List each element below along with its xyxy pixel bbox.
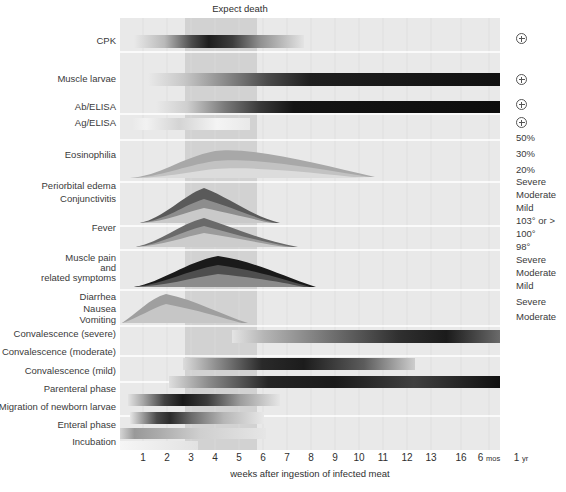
right-label-gi-severe: Severe [516,296,546,307]
row-label-diarrhea: Diarrhea [80,291,116,303]
row-label-convalescence-moderate: Convalescence (moderate) [2,346,116,358]
row-label-incubation: Incubation [72,436,116,448]
x-tick-8: 8 [308,452,314,463]
x-tick-12: 12 [401,452,412,463]
row-label-convalescence-severe: Convalescence (severe) [14,328,116,340]
row-label-periorbital-edema: Periorbital edema [42,180,116,192]
x-axis-title: weeks after ingestion of infected meat [120,468,500,479]
right-label-edema-moderate: Moderate [516,189,556,200]
plot-area [120,18,500,450]
right-label-edema-severe: Severe [516,176,546,187]
circled-plus-icon [516,117,527,128]
series-convalescence-moderate [183,358,415,370]
series-parenteral-phase [128,394,280,406]
right-label-fever-103: 103° or > [516,215,555,226]
row-label-muscle-larvae: Muscle larvae [57,73,116,85]
x-tick-1: 1 [140,452,146,463]
plot-svg [120,18,500,450]
circled-plus-icon [516,74,527,85]
series-convalescence-mild [169,376,500,388]
series-muscle-larvae [148,73,500,86]
chart-root: Expect death CPKMuscle larvaeAb/ELISAAg/… [0,0,566,492]
x-tick-3: 3 [188,452,194,463]
series-migration-newborn-larvae [130,412,264,424]
series-convalescence-severe [232,330,500,343]
right-label-muscle-pain-mild: Mild [516,280,533,291]
row-label-ab-elisa: Ab/ELISA [75,101,116,113]
right-label-eosinophilia-30: 30% [516,148,535,159]
row-label-nausea: Nausea [83,303,116,315]
x-tick-16: 16 [455,452,466,463]
x-tick-1-yr: 1 yr [514,452,529,463]
row-label-vomiting: Vomiting [80,314,116,326]
x-tick-5: 5 [236,452,242,463]
right-label-fever-100: 100° [516,228,536,239]
right-label-eosinophilia-20: 20% [516,164,535,175]
row-label-eosinophilia: Eosinophilia [65,149,116,161]
right-label-gi-moderate: Moderate [516,311,556,322]
row-label-cpk: CPK [96,35,116,47]
x-tick-6: 6 [260,452,266,463]
row-label-conjunctivitis: Conjunctivitis [60,193,116,205]
x-tick-11: 11 [378,452,388,463]
row-label-enteral-phase: Enteral phase [57,419,116,431]
x-tick-13: 13 [425,452,436,463]
series-ag-elisa [132,118,250,130]
right-label-column: 50%30%20%SevereModerateMild103° or >100°… [516,0,566,460]
row-label-convalescence-mild: Convalescence (mild) [25,365,116,377]
series-incubation [120,441,198,450]
series-cpk [134,35,304,48]
x-tick-7: 7 [284,452,290,463]
right-label-eosinophilia-50: 50% [516,132,535,143]
right-label-fever-98: 98° [516,241,530,252]
circled-plus-icon [516,99,527,110]
plus-icon-muscle-larvae-positive [516,74,527,87]
row-label-ag-elisa: Ag/ELISA [75,117,116,129]
row-label-migration-newborn-larvae: Migration of newborn larvae [0,401,116,413]
row-label-parenteral-phase: Parenteral phase [44,383,116,395]
circled-plus-icon [516,33,527,44]
x-tick-2: 2 [164,452,170,463]
plus-icon-ab-elisa-positive [516,99,527,112]
plus-icon-ag-elisa-positive [516,117,527,130]
series-enteral-phase [120,428,266,439]
series-ab-elisa [156,101,500,113]
x-tick-9: 9 [332,452,338,463]
row-label-muscle-pain-related: related symptoms [41,272,116,284]
right-label-edema-mild: Mild [516,202,533,213]
row-label-fever: Fever [92,222,116,234]
right-label-muscle-pain-severe: Severe [516,254,546,265]
expect-death-annotation: Expect death [185,3,295,14]
x-tick-10: 10 [353,452,364,463]
x-tick-4: 4 [212,452,218,463]
row-label-column: CPKMuscle larvaeAb/ELISAAg/ELISAEosinoph… [0,0,116,460]
right-label-muscle-pain-moderate: Moderate [516,267,556,278]
plus-icon-cpk-positive [516,33,527,46]
x-tick-6-mos: 6 mos [478,452,501,463]
